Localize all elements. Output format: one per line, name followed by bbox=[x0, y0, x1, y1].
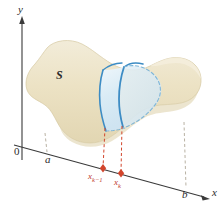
y-axis-arrowhead bbox=[19, 16, 25, 24]
xk-minus-1-label: xk−1 bbox=[88, 172, 103, 183]
projection-line-a bbox=[45, 133, 47, 152]
xk-label: xk bbox=[114, 178, 121, 189]
cross-section-slab bbox=[100, 63, 162, 131]
diagram-svg bbox=[0, 0, 222, 214]
projection-line-b bbox=[184, 122, 186, 188]
bound-b-label: b bbox=[182, 189, 188, 200]
x-axis-label: x bbox=[212, 187, 217, 198]
figure-canvas: y x 0 a b S xk−1 xk bbox=[0, 0, 222, 214]
origin-label: 0 bbox=[14, 146, 20, 157]
solid-label: S bbox=[56, 69, 63, 81]
axis-point-markers bbox=[100, 164, 124, 177]
bound-a-label: a bbox=[45, 154, 51, 165]
xk-subscript: k bbox=[118, 182, 121, 189]
x-axis-arrowhead bbox=[201, 195, 210, 200]
x-axis-line bbox=[14, 145, 204, 197]
xk-minus-1-subscript: k−1 bbox=[92, 176, 103, 183]
y-axis-label: y bbox=[18, 4, 23, 15]
marker-xk bbox=[118, 169, 124, 177]
